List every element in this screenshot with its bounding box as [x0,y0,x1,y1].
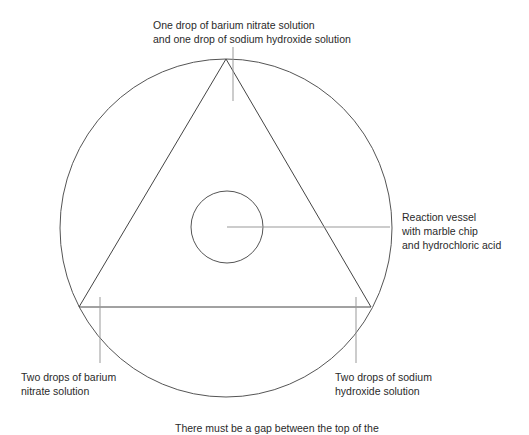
bottom-left-label-line-2: nitrate solution [21,384,116,398]
bottom-right-label-line-2: hydroxide solution [335,384,432,398]
vessel-label: Reaction vessel with marble chip and hyd… [402,210,501,252]
bottom-right-label-line-1: Two drops of sodium [335,370,432,384]
vessel-label-line-3: and hydrochloric acid [402,238,501,252]
vessel-label-line-2: with marble chip [402,224,501,238]
vessel-label-line-1: Reaction vessel [402,210,501,224]
bottom-left-label: Two drops of barium nitrate solution [21,370,116,398]
top-label-line-2: and one drop of sodium hydroxide solutio… [153,32,351,46]
top-label: One drop of barium nitrate solution and … [153,18,351,46]
outer-circle [60,59,392,397]
bottom-left-label-line-1: Two drops of barium [21,370,116,384]
bottom-right-label: Two drops of sodium hydroxide solution [335,370,432,398]
caption: There must be a gap between the top of t… [175,421,379,435]
top-label-line-1: One drop of barium nitrate solution [153,18,351,32]
